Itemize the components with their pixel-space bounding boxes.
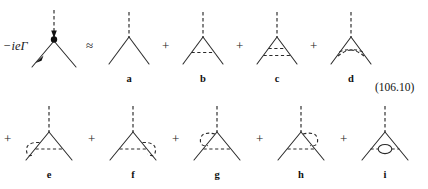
clipped-text-above (0, 0, 428, 6)
diagram-g-label: g (209, 169, 225, 180)
diagram-e-label: e (41, 169, 57, 180)
diagram-g (188, 104, 246, 164)
diagram-b (178, 10, 228, 68)
plus-operator: + (340, 131, 347, 147)
plus-operator: + (310, 38, 317, 54)
diagram-b-label: b (195, 73, 211, 84)
plus-operator: + (236, 38, 243, 54)
diagram-c (252, 10, 302, 68)
diagram-i (356, 104, 414, 164)
diagram-e (20, 104, 78, 164)
plus-operator: + (88, 131, 95, 147)
diagram-h (272, 104, 330, 164)
equation-number: (106.10) (375, 81, 414, 93)
plus-operator: + (256, 131, 263, 147)
diagram-a (104, 10, 154, 68)
diagram-h-label: h (293, 169, 309, 180)
equation-figure: −ieΓ ≈ a + b + (0, 0, 428, 189)
approx-operator: ≈ (86, 38, 93, 54)
diagram-d (326, 10, 376, 68)
diagram-full-vertex (26, 8, 82, 70)
diagram-f (104, 104, 162, 164)
plus-operator: + (162, 38, 169, 54)
diagram-f-label: f (125, 169, 141, 180)
diagram-i-label: i (377, 169, 393, 180)
diagram-d-label: d (343, 73, 359, 84)
plus-operator: + (172, 131, 179, 147)
vertex-function-label: −ieΓ (3, 39, 28, 54)
diagram-c-label: c (269, 73, 285, 84)
diagram-a-label: a (121, 73, 137, 84)
plus-operator: + (4, 131, 11, 147)
